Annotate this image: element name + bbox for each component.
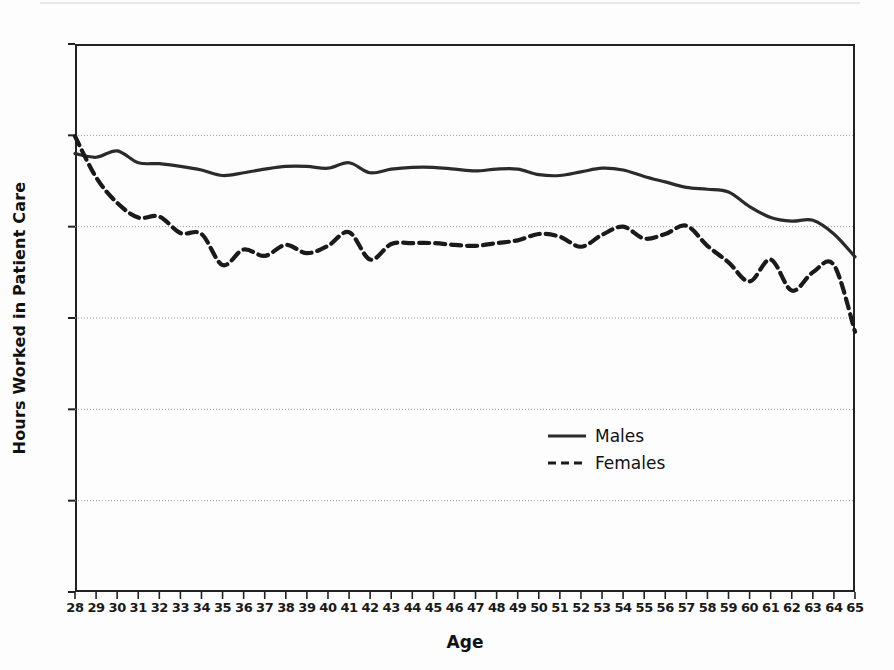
series-line-males (75, 151, 855, 257)
data-series (75, 44, 855, 592)
chart-legend: Males Females (545, 422, 735, 476)
legend-label-females: Females (589, 453, 665, 473)
line-chart: 0102030405060 28293031323334353637383940… (75, 44, 855, 592)
x-tick-label: 65 (838, 600, 872, 615)
legend-dashed-line-icon (545, 456, 589, 470)
chart-page: 0102030405060 28293031323334353637383940… (0, 0, 894, 670)
legend-item-females: Females (545, 449, 735, 476)
legend-label-males: Males (589, 426, 644, 446)
series-line-females (75, 136, 855, 331)
legend-item-males: Males (545, 422, 735, 449)
x-axis-title: Age (75, 632, 855, 652)
legend-solid-line-icon (545, 429, 589, 443)
scan-artifact-line (40, 2, 860, 4)
y-axis-title: Hours Worked in Patient Care (10, 182, 29, 455)
